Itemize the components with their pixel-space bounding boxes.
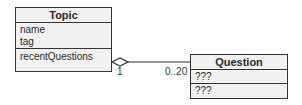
aggregation-diamond-icon [112, 58, 128, 66]
question-class[interactable]: Question ??? ??? [190, 54, 288, 99]
topic-attribute-recentquestions: recentQuestions [20, 51, 111, 63]
topic-operations: recentQuestions [16, 49, 111, 63]
topic-multiplicity: 1 [117, 66, 123, 77]
topic-attributes: name tag [16, 23, 111, 49]
question-attributes: ??? [191, 70, 287, 84]
question-operations: ??? [191, 84, 287, 97]
topic-class-name: Topic [16, 8, 111, 23]
question-operation: ??? [195, 85, 287, 97]
question-multiplicity: 0..20 [165, 66, 187, 77]
question-attribute: ??? [195, 71, 287, 83]
topic-attribute-name: name [20, 24, 111, 36]
topic-attribute-tag: tag [20, 36, 111, 48]
question-class-name: Question [191, 55, 287, 70]
topic-class[interactable]: Topic name tag recentQuestions [15, 7, 112, 72]
